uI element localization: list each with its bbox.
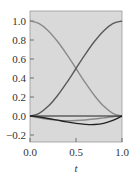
x-tick-label: 1.0 — [115, 146, 129, 158]
x-axis-label: t — [74, 162, 78, 174]
y-tick-label: 1.0 — [12, 15, 26, 27]
y-tick-label: 0.6 — [12, 53, 26, 65]
hermite-basis-chart: 1.00.80.60.40.20.0−0.2 0.00.51.0 t — [0, 0, 136, 176]
y-tick-label: 0.2 — [12, 91, 26, 103]
y-tick-label: 0.0 — [12, 110, 26, 122]
x-tick-label: 0.5 — [69, 146, 83, 158]
y-tick-label: 0.8 — [12, 34, 26, 46]
x-tick-label: 0.0 — [23, 146, 37, 158]
y-tick-label: −0.2 — [6, 129, 26, 141]
y-tick-label: 0.4 — [12, 72, 26, 84]
